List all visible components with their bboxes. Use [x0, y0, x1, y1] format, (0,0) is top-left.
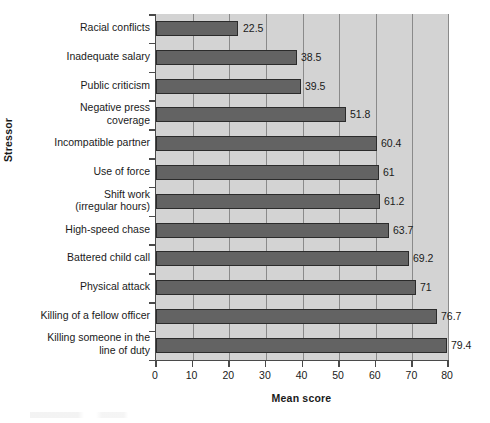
bar-value-2: 39.5 [305, 79, 325, 94]
y-tick [149, 216, 155, 218]
x-tick-label-0: 0 [140, 369, 170, 381]
bar-value-4: 60.4 [381, 136, 401, 151]
y-tick-label-2: Public criticism [0, 79, 150, 92]
bar-value-5: 61 [383, 165, 395, 180]
bar-value-7: 63.7 [393, 223, 413, 238]
bar-value-11: 79.4 [451, 338, 471, 353]
y-tick [149, 72, 155, 74]
bar-4 [156, 136, 377, 151]
y-tick-label-9: Physical attack [0, 280, 150, 293]
bar-chart: Stressor Racial conflicts 22.5 Inadequat… [0, 0, 490, 423]
y-tick-label-0: Racial conflicts [0, 21, 150, 34]
x-tick-label-20: 20 [213, 369, 243, 381]
bar-1 [156, 50, 297, 65]
x-axis-title: Mean score [155, 392, 448, 404]
x-tick-20 [228, 361, 230, 367]
x-tick-label-70: 70 [396, 369, 426, 381]
bar-0 [156, 21, 238, 36]
x-tick-70 [411, 361, 413, 367]
x-tick-label-40: 40 [287, 369, 317, 381]
bar-value-8: 69.2 [413, 251, 433, 266]
x-tick-60 [375, 361, 377, 367]
y-tick [149, 244, 155, 246]
x-tick-0 [155, 361, 157, 367]
y-tick [149, 302, 155, 304]
bar-value-10: 76.7 [441, 309, 461, 324]
y-tick-label-10: Killing of a fellow officer [0, 309, 150, 322]
x-tick-80 [447, 361, 449, 367]
bar-6 [156, 194, 380, 209]
x-tick-label-80: 80 [432, 369, 462, 381]
x-tick-10 [192, 361, 194, 367]
y-tick-label-11: Killing someone in the line of duty [0, 331, 150, 356]
bar-2 [156, 79, 301, 94]
y-tick [149, 158, 155, 160]
bar-5 [156, 165, 379, 180]
y-tick-label-4: Incompatible partner [0, 136, 150, 149]
bar-3 [156, 107, 346, 122]
x-tick-40 [302, 361, 304, 367]
bar-value-1: 38.5 [301, 50, 321, 65]
x-tick-label-50: 50 [323, 369, 353, 381]
x-tick-50 [338, 361, 340, 367]
cropped-caption-artifact [30, 412, 150, 418]
bar-10 [156, 309, 437, 324]
y-tick [149, 14, 155, 16]
y-tick [149, 273, 155, 275]
bar-value-6: 61.2 [384, 194, 404, 209]
x-tick-label-30: 30 [250, 369, 280, 381]
y-tick-label-5: Use of force [0, 165, 150, 178]
y-tick-label-7: High-speed chase [0, 223, 150, 236]
x-tick-label-60: 60 [360, 369, 390, 381]
bar-8 [156, 251, 409, 266]
y-tick [149, 129, 155, 131]
y-tick-label-8: Battered child call [0, 251, 150, 264]
x-tick-30 [265, 361, 267, 367]
bar-11 [156, 338, 447, 353]
y-tick-label-3: Negative press coverage [0, 101, 150, 126]
y-tick-label-1: Inadequate salary [0, 50, 150, 63]
bar-9 [156, 280, 416, 295]
bar-value-9: 71 [420, 280, 432, 295]
bar-value-0: 22.5 [243, 21, 263, 36]
y-tick [149, 43, 155, 45]
bar-7 [156, 223, 389, 238]
x-tick-label-10: 10 [177, 369, 207, 381]
bar-value-3: 51.8 [350, 107, 370, 122]
y-tick-label-6: Shift work (irregular hours) [0, 188, 150, 213]
